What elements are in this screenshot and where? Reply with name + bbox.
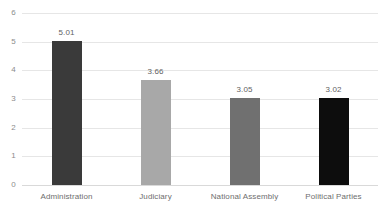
bar-slot-2: 3.05 <box>200 13 289 185</box>
y-axis-tick-6: 6 <box>0 9 16 17</box>
bar-slot-1: 3.66 <box>111 13 200 185</box>
x-axis-label-national-assembly: National Assembly <box>200 192 289 201</box>
x-axis-label-political-parties: Political Parties <box>289 192 378 201</box>
x-axis-label-judiciary: Judiciary <box>111 192 200 201</box>
y-axis-tick-3: 3 <box>0 95 16 103</box>
y-axis-tick-4: 4 <box>0 66 16 74</box>
bar-value-label-3: 3.02 <box>326 86 342 94</box>
bar-judiciary[interactable] <box>141 80 171 185</box>
bar-value-label-0: 5.01 <box>59 29 75 37</box>
y-axis-tick-2: 2 <box>0 124 16 132</box>
bar-political-parties[interactable] <box>319 98 349 185</box>
bar-chart: 6 5 4 3 2 1 0 5.01 3.66 3.05 3.02 Admini… <box>0 0 392 214</box>
plot-area: 5.01 3.66 3.05 3.02 <box>22 13 378 185</box>
gridline-0-baseline <box>22 185 378 186</box>
bar-national-assembly[interactable] <box>230 98 260 185</box>
y-axis-tick-0: 0 <box>0 181 16 189</box>
bar-administration[interactable] <box>52 41 82 185</box>
bar-value-label-1: 3.66 <box>148 68 164 76</box>
bar-slot-0: 5.01 <box>22 13 111 185</box>
x-axis-label-administration: Administration <box>22 192 111 201</box>
bar-value-label-2: 3.05 <box>237 86 253 94</box>
y-axis-tick-5: 5 <box>0 38 16 46</box>
y-axis-tick-1: 1 <box>0 152 16 160</box>
bar-slot-3: 3.02 <box>289 13 378 185</box>
